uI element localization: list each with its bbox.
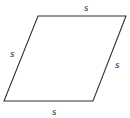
side-label-bottom: s bbox=[52, 105, 56, 117]
side-label-right: s bbox=[115, 58, 119, 70]
side-label-left: s bbox=[10, 47, 14, 59]
side-label-top: s bbox=[84, 1, 88, 13]
rhombus-diagram: s s s s bbox=[0, 0, 130, 118]
rhombus-shape bbox=[4, 16, 126, 101]
